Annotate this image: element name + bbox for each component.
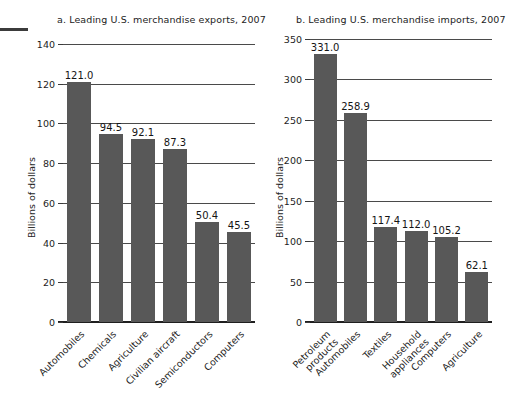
gridline <box>63 123 255 124</box>
y-axis-tick <box>58 84 63 85</box>
gridline <box>63 203 255 204</box>
y-axis-tick <box>305 201 310 202</box>
y-axis-tick <box>305 39 310 40</box>
y-axis-tick <box>58 123 63 124</box>
y-axis-tick-label: 0 <box>49 317 55 328</box>
y-axis-tick-label: 250 <box>284 114 302 125</box>
y-axis-tick-label: 20 <box>43 277 55 288</box>
y-axis-tick <box>58 322 63 323</box>
chart-panel-a: a. Leading U.S. merchandise exports, 200… <box>0 0 258 416</box>
y-axis-tick <box>305 160 310 161</box>
x-axis-category-label: Automobiles <box>37 329 86 378</box>
gridline <box>310 201 492 202</box>
gridline <box>310 79 492 80</box>
y-axis-tick <box>305 241 310 242</box>
gridline <box>63 163 255 164</box>
y-axis-tick-label: 60 <box>43 197 55 208</box>
y-axis-tick <box>58 243 63 244</box>
bar-value-label: 117.4 <box>371 215 400 226</box>
bar: 45.5Computers <box>227 232 251 322</box>
bar: 62.1Agriculture <box>465 272 488 322</box>
bar: 92.1Agriculture <box>131 139 155 322</box>
y-axis-tick-label: 120 <box>37 78 55 89</box>
y-axis-tick <box>58 203 63 204</box>
bar-value-label: 62.1 <box>466 260 488 271</box>
bar: 258.9Automobiles <box>344 113 367 322</box>
chart-panel-b: b. Leading U.S. merchandise imports, 200… <box>258 0 514 416</box>
y-axis-tick-label: 350 <box>284 34 302 45</box>
y-axis-tick-label: 100 <box>284 236 302 247</box>
gridline <box>63 44 255 45</box>
y-axis-tick <box>305 79 310 80</box>
bar-value-label: 258.9 <box>341 101 370 112</box>
y-axis-tick-label: 300 <box>284 74 302 85</box>
y-axis-tick-label: 140 <box>37 39 55 50</box>
chart-a-plot-area: 020406080100120140121.0Automobiles94.5Ch… <box>63 44 255 322</box>
y-axis-tick-label: 40 <box>43 237 55 248</box>
y-axis-tick-label: 100 <box>37 118 55 129</box>
gridline <box>310 241 492 242</box>
y-axis-tick <box>305 120 310 121</box>
bar-value-label: 331.0 <box>311 42 340 53</box>
bar-value-label: 92.1 <box>132 127 154 138</box>
figure-canvas: a. Leading U.S. merchandise exports, 200… <box>0 0 514 416</box>
bar-value-label: 45.5 <box>228 220 250 231</box>
bar-value-label: 105.2 <box>432 225 461 236</box>
gridline <box>310 120 492 121</box>
y-axis-tick <box>305 322 310 323</box>
bar: 112.0Householdappliances <box>405 231 428 322</box>
y-axis-tick <box>58 282 63 283</box>
y-axis-tick <box>58 163 63 164</box>
bar-value-label: 87.3 <box>164 137 186 148</box>
chart-a-title: a. Leading U.S. merchandise exports, 200… <box>57 14 266 25</box>
y-axis-tick-label: 200 <box>284 155 302 166</box>
bar: 94.5Chemicals <box>99 134 123 322</box>
chart-b-plot-area: 050100150200250300350331.0Petroleumprodu… <box>310 39 492 322</box>
gridline <box>310 39 492 40</box>
chart-b-title: b. Leading U.S. merchandise imports, 200… <box>296 14 506 25</box>
y-axis-tick-label: 150 <box>284 195 302 206</box>
bar-value-label: 50.4 <box>196 210 218 221</box>
y-axis-tick-label: 80 <box>43 158 55 169</box>
bar: 117.4Textiles <box>374 227 397 322</box>
chart-a-y-axis-title: Billions of dollars <box>26 157 37 238</box>
bar-value-label: 121.0 <box>65 70 94 81</box>
bar-value-label: 112.0 <box>402 219 431 230</box>
y-axis-tick <box>58 44 63 45</box>
bar-value-label: 94.5 <box>100 122 122 133</box>
gridline <box>63 84 255 85</box>
gridline <box>310 160 492 161</box>
bar: 87.3Civilian aircraft <box>163 149 187 322</box>
y-axis-tick <box>305 282 310 283</box>
bar: 121.0Automobiles <box>67 82 91 322</box>
y-axis-tick-label: 0 <box>296 317 302 328</box>
y-axis-tick-label: 50 <box>290 276 302 287</box>
bar: 105.2Computers <box>435 237 458 322</box>
bar: 331.0Petroleumproducts <box>314 54 337 322</box>
bar: 50.4Semiconductors <box>195 222 219 322</box>
